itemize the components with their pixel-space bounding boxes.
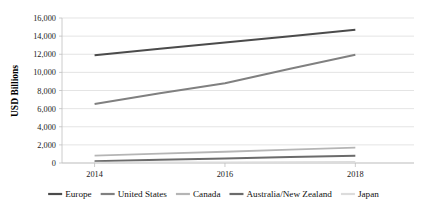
y-tick-label: 2,000 [37, 141, 56, 150]
y-axis-tick-labels: 02,0004,0006,0008,00010,00012,00014,0001… [33, 14, 62, 168]
chart-legend: EuropeUnited StatesCanadaAustralia/New Z… [48, 189, 379, 199]
legend-label-united-states[interactable]: United States [118, 189, 168, 199]
series-line-australia-new-zealand [95, 156, 356, 161]
x-tick-label: 2018 [347, 170, 364, 179]
legend-label-australia-new-zealand[interactable]: Australia/New Zealand [246, 189, 332, 199]
x-axis-tick-labels: 201420162018 [86, 163, 363, 179]
data-series [95, 30, 356, 163]
y-axis-title: USD Billions [10, 65, 20, 117]
y-tick-label: 14,000 [33, 32, 56, 41]
x-tick-label: 2014 [86, 170, 103, 179]
y-tick-label: 0 [52, 159, 56, 168]
y-tick-label: 16,000 [33, 14, 56, 23]
y-tick-label: 4,000 [37, 123, 56, 132]
series-line-united-states [95, 55, 356, 104]
series-line-japan [95, 162, 356, 163]
y-tick-label: 10,000 [33, 68, 56, 77]
x-tick-label: 2016 [217, 170, 234, 179]
legend-label-japan[interactable]: Japan [358, 189, 379, 199]
chart-canvas: 02,0004,0006,0008,00010,00012,00014,0001… [0, 0, 427, 212]
legend-label-europe[interactable]: Europe [65, 189, 92, 199]
gridlines [62, 18, 414, 163]
line-chart-figure: 02,0004,0006,0008,00010,00012,00014,0001… [0, 0, 427, 212]
series-line-europe [95, 30, 356, 55]
y-tick-label: 8,000 [37, 87, 56, 96]
y-tick-label: 6,000 [37, 105, 56, 114]
y-tick-label: 12,000 [33, 50, 56, 59]
legend-label-canada[interactable]: Canada [193, 189, 221, 199]
series-line-canada [95, 148, 356, 156]
